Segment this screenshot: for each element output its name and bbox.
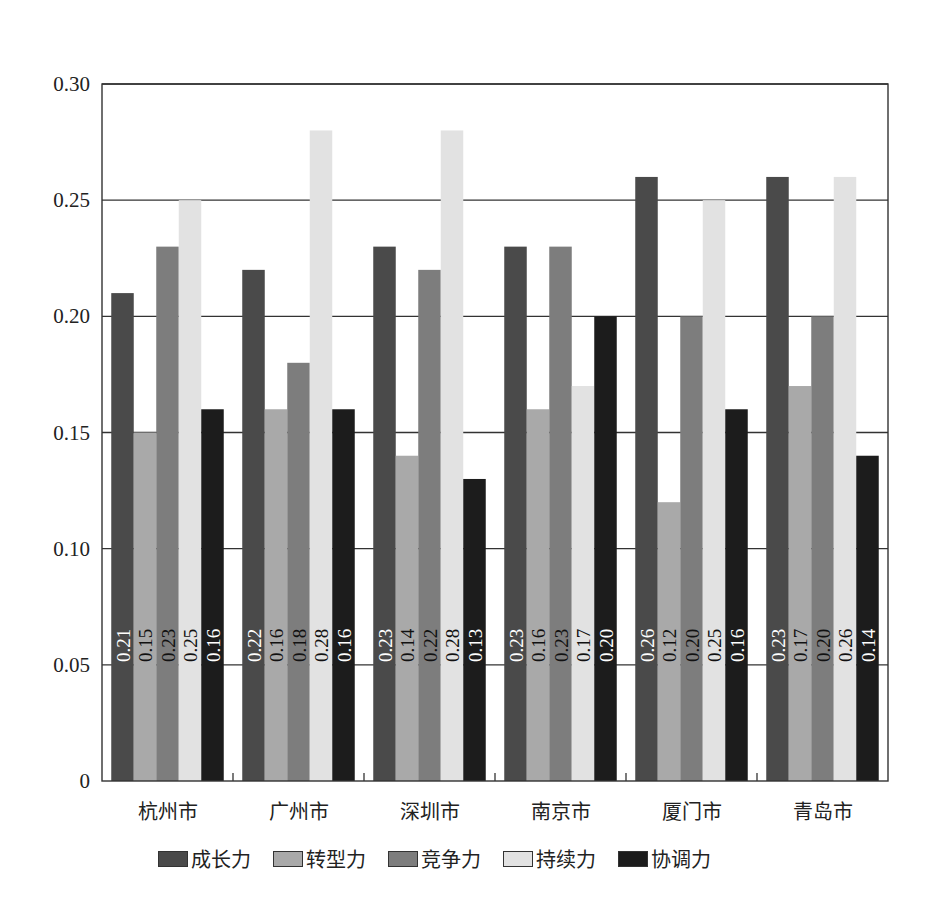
bar [265, 409, 288, 781]
bar-value-label: 0.22 [420, 629, 441, 662]
bar-value-label: 0.18 [289, 629, 310, 662]
y-tick-label: 0.30 [53, 72, 90, 96]
bar [287, 363, 310, 781]
bar-value-label: 0.16 [727, 629, 748, 662]
bar-value-label: 0.23 [768, 629, 789, 662]
bar-value-label: 0.20 [813, 629, 834, 662]
bar-series: 0.210.150.230.250.160.220.160.180.280.16… [111, 130, 879, 781]
bar-value-label: 0.15 [135, 629, 156, 662]
bar [156, 247, 179, 781]
bar [594, 316, 617, 781]
bar [766, 177, 789, 781]
x-category-label: 青岛市 [793, 800, 853, 824]
bar [572, 386, 595, 781]
bar-value-label: 0.17 [790, 629, 811, 662]
bar-value-label: 0.28 [442, 629, 463, 662]
legend-item: 成长力 [158, 844, 251, 873]
bar-value-label: 0.16 [528, 629, 549, 662]
bar [242, 270, 265, 781]
bar [179, 200, 202, 781]
legend-item: 转型力 [273, 844, 366, 873]
bar-value-label: 0.23 [506, 629, 527, 662]
legend-swatch-icon [388, 851, 418, 867]
bar [811, 316, 834, 781]
legend-item: 协调力 [618, 844, 711, 873]
y-tick-label: 0.05 [53, 653, 90, 677]
y-axis-ticks: 00.050.100.150.200.250.30 [53, 72, 90, 793]
bar [201, 409, 224, 781]
bar-value-label: 0.23 [375, 629, 396, 662]
y-tick-label: 0 [80, 769, 91, 793]
x-axis-categories: 杭州市广州市深圳市南京市厦门市青岛市 [138, 800, 853, 824]
bar-chart: 0.210.150.230.250.160.220.160.180.280.16… [0, 0, 942, 914]
legend-label: 成长力 [191, 844, 251, 873]
legend-item: 竞争力 [388, 844, 481, 873]
bar-value-label: 0.20 [682, 629, 703, 662]
bar-value-label: 0.16 [203, 629, 224, 662]
bar-value-label: 0.26 [637, 629, 658, 662]
bar-value-label: 0.17 [573, 629, 594, 662]
bar [441, 130, 464, 781]
bar [504, 247, 527, 781]
y-tick-label: 0.10 [53, 537, 90, 561]
bar-value-label: 0.16 [334, 629, 355, 662]
legend-label: 转型力 [306, 844, 366, 873]
bar-value-label: 0.14 [858, 628, 879, 662]
bar [635, 177, 658, 781]
bar-value-label: 0.14 [397, 628, 418, 662]
y-tick-label: 0.20 [53, 304, 90, 328]
bar-value-label: 0.28 [311, 629, 332, 662]
bar [856, 456, 879, 781]
bar-value-label: 0.12 [659, 629, 680, 662]
bar [834, 177, 857, 781]
legend-swatch-icon [273, 851, 303, 867]
bar [680, 316, 703, 781]
bar-value-label: 0.16 [266, 629, 287, 662]
legend-label: 竞争力 [421, 844, 481, 873]
x-category-label: 深圳市 [400, 800, 460, 824]
bar [703, 200, 726, 781]
bar-value-label: 0.25 [180, 629, 201, 662]
bar [373, 247, 396, 781]
bar-value-label: 0.25 [704, 629, 725, 662]
legend-label: 持续力 [536, 844, 596, 873]
legend-swatch-icon [503, 851, 533, 867]
x-category-label: 广州市 [269, 800, 329, 824]
legend-item: 持续力 [503, 844, 596, 873]
legend: 成长力转型力竞争力持续力协调力 [158, 844, 711, 873]
bar [396, 456, 419, 781]
bar-value-label: 0.21 [113, 629, 134, 662]
legend-swatch-icon [618, 851, 648, 867]
bar [134, 433, 157, 782]
y-tick-label: 0.25 [53, 188, 90, 212]
bar-value-label: 0.22 [244, 629, 265, 662]
bar [111, 293, 134, 781]
bar-value-label: 0.26 [835, 629, 856, 662]
bar [332, 409, 355, 781]
bar [725, 409, 748, 781]
bar-value-label: 0.13 [465, 629, 486, 662]
bar-value-label: 0.23 [158, 629, 179, 662]
bar-value-label: 0.20 [596, 629, 617, 662]
y-tick-label: 0.15 [53, 421, 90, 445]
x-category-label: 杭州市 [138, 800, 198, 824]
bar [527, 409, 550, 781]
x-category-label: 南京市 [531, 800, 591, 824]
x-category-label: 厦门市 [662, 800, 722, 824]
bar [418, 270, 441, 781]
bar-value-label: 0.23 [551, 629, 572, 662]
bar [310, 130, 333, 781]
legend-label: 协调力 [651, 844, 711, 873]
bar [789, 386, 812, 781]
legend-swatch-icon [158, 851, 188, 867]
bar [549, 247, 572, 781]
